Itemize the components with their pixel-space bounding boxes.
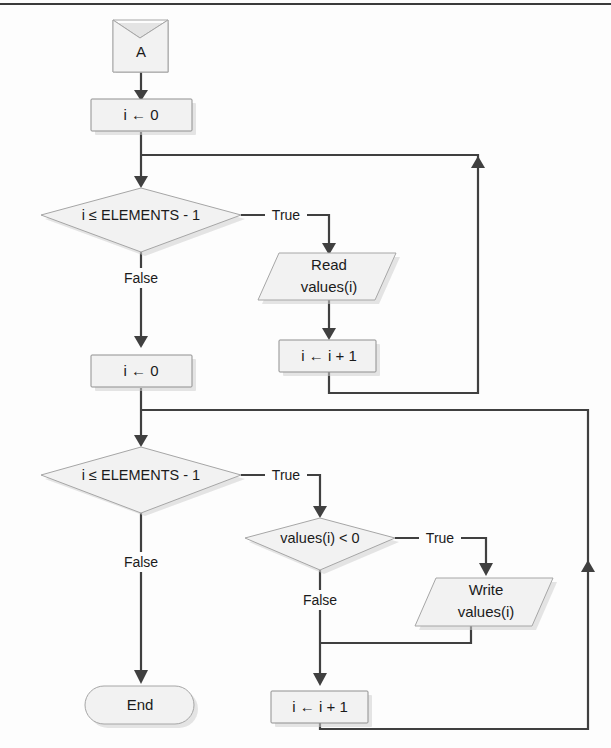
node-decision-negative-label: values(i) < 0 [280,530,359,546]
edge-label-negative-false-group: False [297,590,343,610]
edge-label-write-false-group: False [118,552,164,572]
node-connector-a[interactable]: A [113,20,169,73]
node-init-i-second[interactable]: i ← 0 [91,355,196,391]
edge-decision-negative-false [313,570,327,686]
node-read-values-label-line2: values(i) [301,278,358,295]
node-end-terminator-label: End [127,696,154,713]
node-write-values-label-line1: Write [469,581,504,598]
node-end-terminator[interactable]: End [85,686,198,728]
node-read-values[interactable]: Read values(i) [258,253,400,304]
edge-label-negative-false: False [303,592,337,608]
node-init-i-second-label: i ← 0 [123,362,158,379]
edge-init-first-to-decision-read [134,132,148,188]
flowchart-canvas: A i ← 0 i ≤ ELEMENTS - 1 Read values(i) … [0,0,611,748]
node-connector-a-label: A [136,43,146,60]
edge-connector-a-to-init-first [134,72,148,101]
flowchart-page: A i ← 0 i ≤ ELEMENTS - 1 Read values(i) … [0,0,611,748]
node-write-values[interactable]: Write values(i) [415,578,557,630]
edge-decision-write-false [134,513,148,684]
node-increment-write[interactable]: i ← i + 1 [271,691,372,727]
edge-increment-write-loop-back [142,410,595,729]
edge-label-write-true: True [272,467,300,483]
edge-read-to-increment [322,300,336,340]
node-init-i-first[interactable]: i ← 0 [91,99,196,135]
edge-label-write-false: False [124,554,158,570]
node-decision-loop-write[interactable]: i ≤ ELEMENTS - 1 [41,447,245,516]
edge-decision-read-false [134,252,148,348]
node-decision-loop-read[interactable]: i ≤ ELEMENTS - 1 [41,188,245,256]
node-decision-loop-read-label: i ≤ ELEMENTS - 1 [82,207,200,223]
edge-label-write-true-group: True [265,466,307,484]
node-write-values-label-line2: values(i) [458,603,515,620]
edge-label-read-true-group: True [265,206,307,224]
edge-init-second-to-decision-write [134,388,148,447]
node-increment-read[interactable]: i ← i + 1 [279,340,380,376]
edge-label-read-false-group: False [118,268,164,288]
node-decision-loop-write-label: i ≤ ELEMENTS - 1 [82,467,200,483]
edge-label-negative-true-group: True [419,529,461,547]
edge-label-read-true: True [272,207,300,223]
node-read-values-label-line1: Read [311,256,347,273]
node-increment-write-label: i ← i + 1 [292,698,347,715]
edge-label-read-false: False [124,270,158,286]
node-init-i-first-label: i ← 0 [123,106,158,123]
node-increment-read-label: i ← i + 1 [301,347,356,364]
edge-label-negative-true: True [426,530,454,546]
node-decision-negative[interactable]: values(i) < 0 [245,518,399,574]
